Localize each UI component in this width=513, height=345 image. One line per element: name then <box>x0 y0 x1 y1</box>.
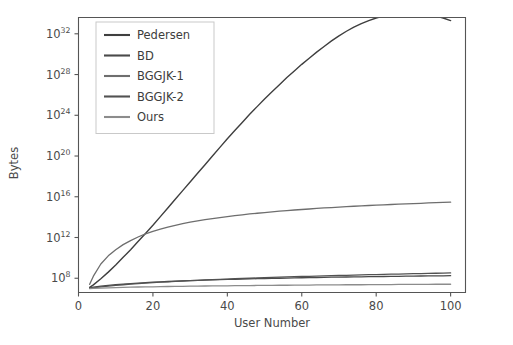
y-tick-label: 108 <box>51 270 71 285</box>
y-tick-label: 1028 <box>46 67 71 82</box>
legend-label-ours: Ours <box>137 110 164 124</box>
series-line-bggjk-1 <box>90 202 451 284</box>
legend-label-bggjk-1: BGGJK-1 <box>137 69 184 83</box>
x-tick-label: 40 <box>220 299 235 313</box>
y-tick-label: 1024 <box>46 107 71 122</box>
x-tick-label: 0 <box>75 299 82 313</box>
y-tick-label: 1016 <box>46 189 71 204</box>
y-tick-label: 1032 <box>46 26 71 41</box>
y-tick-label: 1012 <box>46 230 71 245</box>
legend-label-bggjk-2: BGGJK-2 <box>137 90 184 104</box>
x-tick-label: 20 <box>146 299 161 313</box>
y-tick-label: 1020 <box>46 148 71 163</box>
x-axis-ticks: 020406080100 <box>75 293 462 313</box>
legend-label-pedersen: Pedersen <box>137 28 190 42</box>
y-axis-ticks: 108101210161020102410281032 <box>46 26 79 285</box>
series-line-ours <box>90 284 451 288</box>
chart-legend: PedersenBDBGGJK-1BGGJK-2Ours <box>96 22 214 134</box>
series-line-bggjk-2 <box>90 273 451 288</box>
y-axis-label: Bytes <box>7 147 21 179</box>
x-tick-label: 80 <box>369 299 384 313</box>
x-tick-label: 100 <box>440 299 462 313</box>
figure-container: 020406080100 108101210161020102410281032… <box>0 0 513 345</box>
x-axis-label: User Number <box>234 316 310 330</box>
x-tick-label: 60 <box>294 299 309 313</box>
chart-canvas: 020406080100 108101210161020102410281032… <box>0 0 513 345</box>
legend-label-bd: BD <box>137 49 154 63</box>
